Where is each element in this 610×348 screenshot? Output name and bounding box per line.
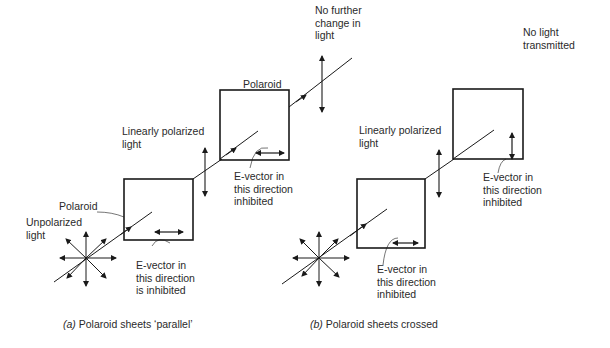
caption-a: (a) Polaroid sheets ‘parallel’ [63, 318, 193, 330]
diagram-a [54, 56, 352, 286]
polaroid-sheet-1 [124, 179, 193, 240]
polaroid-1-label: Polaroid [59, 200, 98, 213]
caption-a-letter: (a) [63, 318, 76, 330]
linearly-polarized-label: Linearly polarized light [122, 125, 204, 150]
linearly-polarized-label-b: Linearly polarized light [359, 124, 441, 149]
polaroid-2-label: Polaroid [243, 78, 282, 91]
evector-inhibited-label-b2: E-vector in this direction inhibited [483, 171, 542, 209]
caption-b-letter: (b) [310, 318, 323, 330]
caption-b-text: Polaroid sheets crossed [323, 318, 438, 330]
evector-inhibited-label-b1: E-vector in this direction inhibited [377, 263, 436, 301]
no-further-change-label: No further change in light [315, 4, 362, 42]
polaroid-sheet-2 [220, 90, 289, 160]
polaroid-sheet-1 [357, 179, 425, 248]
evector-inhibited-label-1: E-vector in this direction is inhibited [136, 259, 195, 297]
caption-b: (b) Polaroid sheets crossed [310, 318, 438, 330]
unpolarized-light-star-icon [293, 232, 349, 286]
evector-inhibited-label-2: E-vector in this direction inhibited [234, 170, 293, 208]
unpolarized-light-label: Unpolarized light [26, 216, 82, 241]
no-light-transmitted-label: No light transmitted [523, 26, 575, 51]
caption-a-text: Polaroid sheets ‘parallel’ [76, 318, 193, 330]
